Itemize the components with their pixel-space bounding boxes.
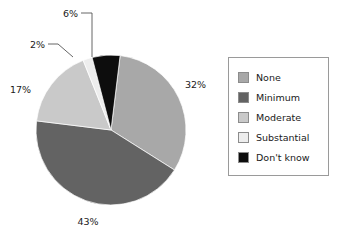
pie-chart-figure: 32% 43% 17% 2% 6% None Minimum Moderate … xyxy=(0,0,341,242)
legend-swatch-dont-know xyxy=(238,152,249,163)
legend-label-substantial: Substantial xyxy=(256,132,309,143)
legend-item-minimum: Minimum xyxy=(238,87,328,107)
legend-item-moderate: Moderate xyxy=(238,107,328,127)
slice-value-substantial: 2% xyxy=(30,39,45,50)
leader-line-substantial xyxy=(48,44,73,57)
legend-label-none: None xyxy=(256,72,281,83)
leader-line-group xyxy=(48,13,92,57)
legend-label-minimum: Minimum xyxy=(256,92,300,103)
legend-item-substantial: Substantial xyxy=(238,127,328,147)
slice-value-dont-know: 6% xyxy=(63,8,78,19)
slice-value-none: 32% xyxy=(185,79,206,90)
slice-value-moderate: 17% xyxy=(10,84,31,95)
legend-item-none: None xyxy=(238,67,328,87)
legend-label-moderate: Moderate xyxy=(256,112,301,123)
chart-legend: None Minimum Moderate Substantial Don't … xyxy=(228,57,329,176)
legend-swatch-moderate xyxy=(238,112,249,123)
legend-swatch-none xyxy=(238,72,249,83)
legend-swatch-minimum xyxy=(238,92,249,103)
legend-label-dont-know: Don't know xyxy=(256,152,310,163)
legend-item-dont-know: Don't know xyxy=(238,147,328,167)
legend-swatch-substantial xyxy=(238,132,249,143)
pie-slice-group xyxy=(36,55,186,205)
leader-line-dont-know xyxy=(81,13,92,57)
slice-value-minimum: 43% xyxy=(77,216,98,227)
